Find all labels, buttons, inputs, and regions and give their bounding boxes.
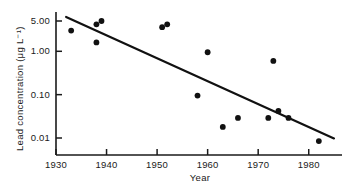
- data-point: [316, 138, 322, 144]
- data-point: [94, 40, 100, 46]
- trend-line: [66, 17, 334, 138]
- data-point: [235, 115, 241, 121]
- data-point: [276, 108, 282, 114]
- plot-area: [0, 0, 352, 190]
- axis-lines: [56, 12, 342, 155]
- data-point: [205, 49, 211, 55]
- data-points: [68, 18, 321, 144]
- data-point: [94, 21, 100, 27]
- data-point: [99, 18, 105, 24]
- data-point: [265, 115, 271, 121]
- chart-figure: Lead concentration (μg L⁻¹) 5.00 1.00 0.…: [0, 0, 352, 190]
- data-point: [159, 24, 165, 30]
- data-point: [286, 115, 292, 121]
- data-point: [164, 21, 170, 27]
- data-point: [68, 28, 74, 34]
- data-point: [270, 58, 276, 64]
- data-point: [220, 124, 226, 130]
- data-point: [195, 93, 201, 99]
